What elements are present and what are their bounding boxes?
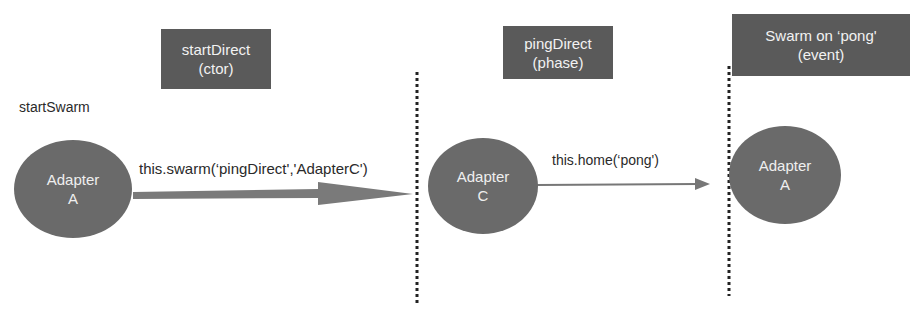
edge-label-swarm: this.swarm(‘pingDirect','AdapterC') (139, 160, 368, 177)
phase-box-subtitle: (event) (798, 45, 845, 64)
node-sublabel: A (68, 189, 78, 208)
phase-box-title: startDirect (182, 40, 250, 59)
node-adapter-c: Adapter C (428, 138, 538, 234)
phase-box-title: Swarm on ‘pong' (765, 26, 876, 45)
phase-box-pingdirect: pingDirect (phase) (503, 26, 613, 79)
phase-box-startdirect: startDirect (ctor) (161, 29, 271, 89)
node-label: Adapter (759, 156, 812, 175)
arrow-home-pong (537, 178, 710, 190)
phase-box-title: pingDirect (524, 34, 592, 53)
start-swarm-label: startSwarm (19, 99, 90, 115)
diagram-canvas: startSwarm startDirect (ctor) pingDirect… (0, 0, 923, 324)
phase-box-subtitle: (phase) (533, 53, 584, 72)
node-adapter-a-start: Adapter A (14, 140, 132, 238)
node-label: Adapter (47, 170, 100, 189)
phase-box-swarm-on-pong: Swarm on ‘pong' (event) (732, 14, 910, 76)
node-sublabel: A (780, 175, 790, 194)
arrow-swarm-pingdirect (133, 182, 413, 205)
edge-label-home: this.home(‘pong') (552, 152, 659, 168)
node-sublabel: C (478, 186, 489, 205)
node-adapter-a-end: Adapter A (729, 126, 841, 224)
phase-box-subtitle: (ctor) (199, 59, 234, 78)
node-label: Adapter (457, 167, 510, 186)
